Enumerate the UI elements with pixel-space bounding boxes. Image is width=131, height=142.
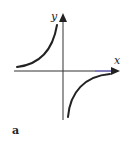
hyperbola-chart: y x a [0, 0, 131, 142]
x-axis-arrow-icon [111, 67, 120, 75]
y-axis-arrow-icon [59, 13, 67, 22]
x-axis-label: x [114, 54, 121, 67]
curve-branch-quadrant-ii [17, 25, 57, 67]
panel-label: a [12, 124, 19, 137]
curve-branch-quadrant-iv [68, 74, 110, 117]
y-axis-label: y [50, 10, 58, 23]
